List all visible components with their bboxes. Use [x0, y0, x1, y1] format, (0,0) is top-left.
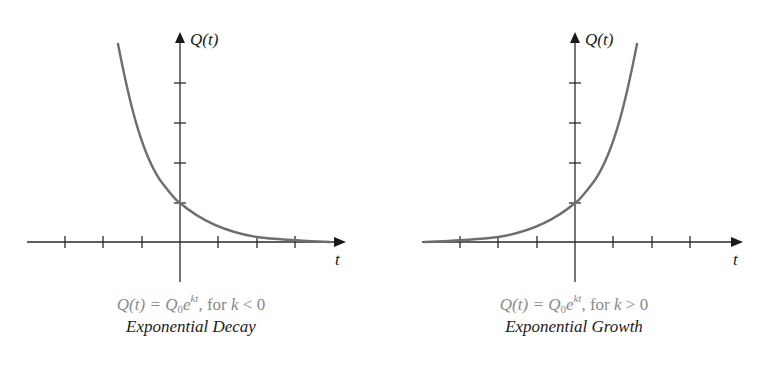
y-axis-label: Q(t): [585, 30, 613, 50]
decay-chart: Q(t) t Q(t) = Q0ekt, for k < 0 Exponenti…: [0, 0, 382, 371]
formula-variable: k: [231, 295, 239, 314]
decay-curve: [118, 44, 330, 242]
formula-variable: k: [614, 295, 622, 314]
y-axis-label: Q(t): [190, 30, 218, 50]
decay-title: Exponential Decay: [0, 317, 382, 337]
decay-plot-area: [0, 0, 382, 371]
x-axis-label: t: [335, 250, 340, 270]
growth-plot-area: [383, 0, 765, 371]
formula-suffix: , for: [198, 295, 231, 314]
x-axis-arrow-icon: [334, 237, 346, 247]
growth-formula: Q(t) = Q0ekt, for k > 0: [383, 292, 765, 315]
y-axis-arrow-icon: [175, 32, 185, 43]
y-axis-arrow-icon: [570, 32, 580, 43]
formula-condition: < 0: [239, 295, 266, 314]
decay-formula: Q(t) = Q0ekt, for k < 0: [0, 292, 382, 315]
x-axis-label: t: [733, 250, 738, 270]
formula-prefix: Q(t) = Q: [117, 295, 178, 314]
formula-suffix: , for: [581, 295, 614, 314]
formula-prefix: Q(t) = Q: [500, 295, 561, 314]
x-axis-arrow-icon: [731, 237, 743, 247]
growth-title: Exponential Growth: [383, 317, 765, 337]
formula-condition: > 0: [622, 295, 649, 314]
growth-curve: [425, 44, 637, 242]
growth-chart: Q(t) t Q(t) = Q0ekt, for k > 0 Exponenti…: [383, 0, 765, 371]
